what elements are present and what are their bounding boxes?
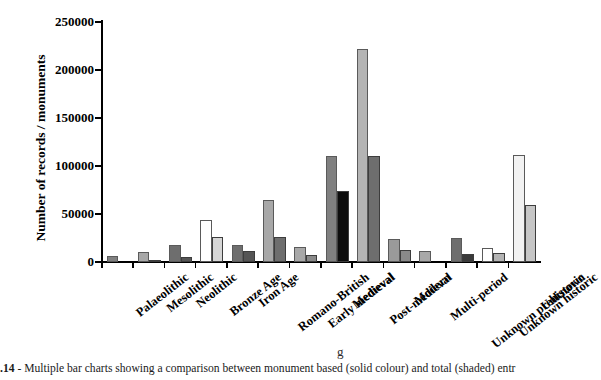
x-axis-label: Neolithic	[193, 270, 240, 311]
x-axis-tick	[414, 262, 416, 268]
bar-monument	[462, 254, 474, 262]
x-axis-tick	[476, 262, 478, 268]
x-axis-tick	[164, 262, 166, 268]
figure-caption-separator: -	[15, 362, 25, 375]
bar-monument	[525, 205, 537, 262]
bar-total	[200, 220, 212, 262]
bar-total	[232, 245, 244, 262]
bar-total	[326, 156, 338, 262]
bar-total	[169, 245, 181, 262]
x-axis-label: Post-medieval	[387, 270, 455, 328]
x-axis-tick	[226, 262, 228, 268]
x-axis-label: Romano-British	[295, 270, 372, 335]
x-axis-tick	[445, 262, 447, 268]
figure-caption-text: Multiple bar charts showing a comparison…	[24, 362, 515, 375]
x-axis-tick	[383, 262, 385, 268]
bar-total	[482, 248, 494, 262]
x-axis-tick	[132, 262, 134, 268]
y-axis-title: Number of records / monuments	[33, 23, 49, 273]
bar-monument	[149, 260, 161, 262]
bar-monument	[368, 156, 380, 262]
x-axis-label: Medieval	[350, 270, 398, 312]
bar-monument	[274, 237, 286, 262]
x-axis-label: Unknown historic	[516, 270, 601, 341]
x-axis-label: Unknown	[538, 270, 588, 314]
bar-total	[388, 239, 400, 262]
x-axis-label: Mesolithic	[163, 270, 216, 316]
x-axis-tick	[195, 262, 197, 268]
x-axis-label: Multi-period	[448, 270, 511, 324]
y-axis-tick-label: 250000	[22, 15, 94, 28]
x-axis-label: Early medieval	[325, 270, 398, 332]
caption-artifact-glyph: g	[337, 344, 344, 360]
x-axis-tick	[257, 262, 259, 268]
x-axis-label: Iron Age	[255, 270, 301, 311]
bar-monument	[337, 191, 349, 262]
bar-monument	[306, 255, 318, 262]
x-axis-label: Palaeolithic	[134, 270, 192, 320]
y-axis-tick-label: 0	[22, 255, 94, 268]
x-axis-label: Bronze Age	[227, 270, 284, 320]
x-axis-tick	[351, 262, 353, 268]
y-axis-tick-label: 100000	[22, 159, 94, 172]
bar-monument	[400, 250, 412, 262]
y-axis-tick-label: 150000	[22, 111, 94, 124]
bar-monument	[212, 237, 224, 262]
bar-total	[138, 252, 150, 262]
x-axis-label: Modern	[411, 270, 454, 308]
x-axis-tick	[101, 262, 103, 268]
x-axis-tick	[508, 262, 510, 268]
bars-layer	[101, 22, 539, 262]
bar-total	[294, 247, 306, 262]
bar-monument	[243, 251, 255, 262]
figure-caption-number: .14	[0, 362, 15, 375]
x-axis-label: Unknown prehistoric	[489, 270, 588, 352]
x-axis-tick	[289, 262, 291, 268]
bar-monument	[181, 257, 193, 262]
y-axis-tick-label: 50000	[22, 207, 94, 220]
bar-total	[107, 256, 119, 262]
bar-total	[451, 238, 463, 262]
figure-caption: .14 - Multiple bar charts showing a comp…	[0, 362, 575, 376]
x-axis-tick	[320, 262, 322, 268]
bar-monument	[493, 253, 505, 262]
bar-total	[513, 155, 525, 262]
y-axis-tick-label: 200000	[22, 63, 94, 76]
bar-total	[419, 251, 431, 262]
bar-total	[357, 49, 369, 262]
bar-total	[263, 200, 275, 262]
